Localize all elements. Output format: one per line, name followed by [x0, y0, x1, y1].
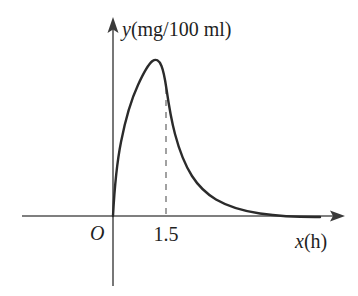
y-axis-units: (mg/100 ml)	[131, 18, 232, 41]
alcohol-concentration-chart: y(mg/100 ml) x(h) O 1.5	[0, 0, 358, 296]
y-axis-label: y(mg/100 ml)	[120, 18, 231, 41]
x-tick-label-1point5: 1.5	[154, 223, 179, 245]
y-axis-variable: y	[120, 18, 131, 41]
x-axis-units: (h)	[304, 230, 327, 253]
x-axis-label: x(h)	[294, 230, 327, 253]
x-axis-variable: x	[294, 230, 304, 252]
origin-label: O	[90, 222, 104, 244]
figure-container: y(mg/100 ml) x(h) O 1.5	[0, 0, 358, 296]
